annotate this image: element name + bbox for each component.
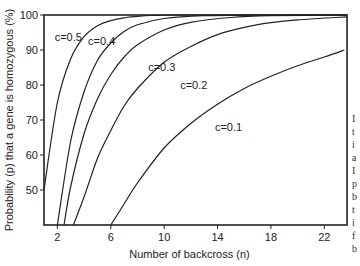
y-tick-label: 70 — [26, 114, 38, 126]
x-tick-label: 6 — [108, 231, 114, 243]
y-tick-label: 50 — [26, 184, 38, 196]
clipped-char: I — [352, 164, 360, 177]
clipped-char: i — [352, 138, 360, 151]
clipped-char: I — [352, 112, 360, 125]
x-tick-label: 2 — [54, 231, 60, 243]
x-tick-label: 10 — [158, 231, 170, 243]
clipped-char: t — [352, 125, 360, 138]
y-tick-label: 60 — [26, 149, 38, 161]
clipped-char: p — [352, 177, 360, 190]
y-tick-label: 90 — [26, 44, 38, 56]
chart: 50607080901002610141822Number of backcro… — [0, 0, 360, 266]
clipped-char: b — [352, 242, 360, 255]
y-tick-label: 80 — [26, 79, 38, 91]
clipped-char: t — [352, 203, 360, 216]
curve-label: c=0.5 — [55, 31, 82, 43]
curve-label: c=0.2 — [180, 79, 207, 91]
curve-c-0_2 — [73, 17, 347, 225]
clipped-caption-text: ItiaIpbtifb — [352, 112, 360, 255]
y-axis-label: Probability (p) that a gene is homozygou… — [3, 9, 15, 232]
x-tick-label: 22 — [318, 231, 330, 243]
curve-label: c=0.4 — [88, 35, 115, 47]
x-axis-label: Number of backcross (n) — [129, 248, 249, 260]
x-tick-label: 18 — [265, 231, 277, 243]
x-tick-label: 14 — [211, 231, 223, 243]
clipped-char: a — [352, 151, 360, 164]
clipped-char: f — [352, 229, 360, 242]
curve-labels: c=0.5c=0.4c=0.3c=0.2c=0.1 — [55, 31, 242, 132]
curve-c-0_1 — [111, 50, 345, 225]
clipped-char: b — [352, 190, 360, 203]
y-tick-label: 100 — [20, 9, 38, 21]
axes: 50607080901002610141822Number of backcro… — [3, 9, 347, 260]
clipped-char: i — [352, 216, 360, 229]
curve-label: c=0.3 — [148, 61, 175, 73]
curve-label: c=0.1 — [215, 121, 242, 133]
